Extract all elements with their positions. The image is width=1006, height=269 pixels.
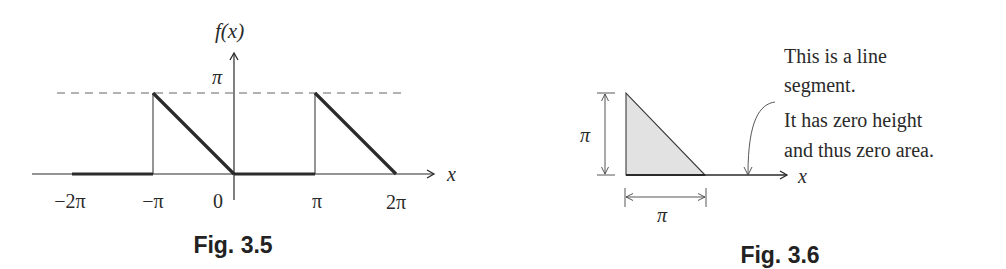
figure-3-6: π π x This is a line segment. It has zer… bbox=[580, 45, 934, 268]
width-dimension-label: π bbox=[657, 204, 668, 226]
x-axis-label: x bbox=[446, 163, 456, 185]
x-axis-label: x bbox=[797, 165, 807, 187]
x-tick-label: 0 bbox=[213, 190, 223, 212]
x-tick-label: π bbox=[312, 190, 322, 212]
y-tick-label: π bbox=[212, 66, 223, 88]
height-dimension-label: π bbox=[580, 124, 591, 146]
x-tick-label: 2π bbox=[386, 191, 406, 213]
x-tick-label: −π bbox=[142, 190, 163, 212]
y-axis-label: f(x) bbox=[215, 19, 244, 43]
shaded-triangle bbox=[626, 93, 705, 175]
figure-3-5: f(x) x π −2π −π 0 π 2π Fig. 3.5 bbox=[32, 19, 456, 258]
function-decreasing-segment bbox=[315, 93, 396, 174]
annotation-text: This is a line segment. It has zero heig… bbox=[784, 45, 934, 161]
x-tick-label: −2π bbox=[54, 190, 85, 212]
function-decreasing-segment bbox=[153, 93, 234, 174]
figure-caption: Fig. 3.6 bbox=[740, 242, 819, 268]
annotation-pointer bbox=[748, 102, 775, 174]
figure-caption: Fig. 3.5 bbox=[193, 232, 272, 258]
